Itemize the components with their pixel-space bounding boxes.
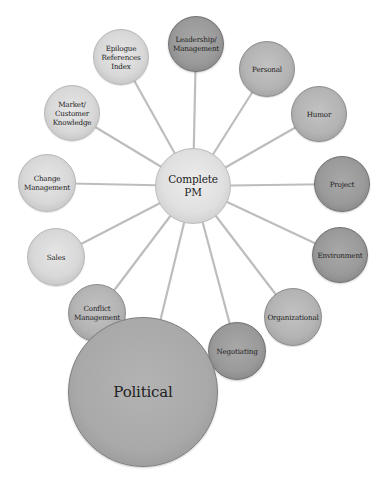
node-humor: Humor — [291, 86, 347, 142]
center-node-label: Complete PM — [166, 173, 219, 199]
node-label-line: Epilogue — [106, 44, 137, 53]
node-label-line: Political — [113, 383, 172, 401]
node-label-line: Organizational — [267, 313, 318, 322]
node-label: ConflictManagement — [72, 304, 122, 322]
node-label-line: Management — [74, 313, 120, 322]
node-label-line: Management — [24, 183, 70, 192]
center-label-line-2: PM — [184, 186, 201, 198]
node-label: ChangeManagement — [22, 174, 72, 192]
center-label-line-1: Complete — [168, 173, 217, 185]
node-label-line: Environment — [317, 251, 362, 260]
node-label-line: Conflict — [83, 304, 110, 313]
node-change: ChangeManagement — [18, 154, 76, 212]
node-label-line: Change — [34, 174, 61, 183]
node-label: Political — [111, 383, 174, 401]
node-label-line: Index — [111, 62, 130, 71]
node-label: EpilogueReferencesIndex — [100, 44, 143, 71]
node-negotiating: Negotiating — [208, 322, 266, 380]
node-organizational: Organizational — [264, 288, 322, 346]
node-label: Sales — [45, 253, 67, 262]
node-label: Negotiating — [214, 347, 259, 356]
node-label: Environment — [315, 251, 364, 260]
node-leadership: Leadership/Management — [168, 16, 224, 72]
node-label-line: Knowledge — [53, 118, 92, 127]
node-label: Market/CustomerKnowledge — [51, 100, 94, 127]
node-label-line: References — [102, 53, 141, 62]
node-label-line: Negotiating — [216, 347, 257, 356]
node-label-line: Project — [330, 180, 355, 189]
node-environment: Environment — [312, 227, 368, 283]
node-project: Project — [314, 156, 370, 212]
node-label-line: Customer — [55, 109, 89, 118]
node-political: Political — [68, 317, 218, 467]
node-market: Market/CustomerKnowledge — [44, 85, 100, 141]
node-label-line: Humor — [307, 110, 331, 119]
node-label: Organizational — [265, 313, 320, 322]
node-label: Personal — [250, 65, 284, 74]
node-epilogue: EpilogueReferencesIndex — [93, 29, 149, 85]
node-label-line: Sales — [47, 253, 65, 262]
node-label: Project — [328, 180, 357, 189]
node-label: Humor — [305, 110, 333, 119]
node-label-line: Market/ — [58, 100, 86, 109]
center-node-complete-pm: Complete PM — [155, 148, 231, 224]
node-label-line: Management — [173, 44, 219, 53]
node-label: Leadership/Management — [171, 35, 221, 53]
node-label-line: Leadership/ — [175, 35, 216, 44]
node-sales: Sales — [27, 228, 85, 286]
complete-pm-hub-diagram: EpilogueReferencesIndexLeadership/Manage… — [0, 0, 387, 486]
node-personal: Personal — [239, 41, 295, 97]
node-label-line: Personal — [252, 65, 282, 74]
